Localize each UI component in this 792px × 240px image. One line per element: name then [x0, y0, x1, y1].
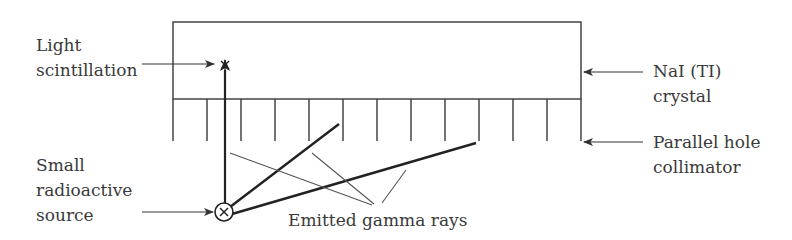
- label-line: radioactive: [36, 178, 132, 203]
- label-line: scintillation: [36, 58, 137, 83]
- label-line: source: [36, 203, 132, 228]
- label-line: NaI (TI): [653, 59, 721, 84]
- radioactive-source-icon: [215, 203, 233, 221]
- collimator-label: Parallel hole collimator: [653, 130, 761, 180]
- source-label: Small radioactive source: [36, 153, 132, 228]
- parallel-hole-collimator: [173, 99, 581, 141]
- label-line: collimator: [653, 155, 761, 180]
- gamma-rays-label: Emitted gamma rays: [288, 208, 467, 233]
- gamma-ray-oblique-1: [230, 124, 339, 207]
- nai-crystal: [173, 22, 581, 99]
- scintillation-star-icon: [221, 60, 229, 70]
- label-line: Light: [36, 33, 137, 58]
- crystal-label: NaI (TI) crystal: [653, 59, 721, 109]
- label-line: Emitted gamma rays: [288, 208, 467, 233]
- label-line: Small: [36, 153, 132, 178]
- gamma-rays-leader-lines: [230, 153, 406, 205]
- label-line: Parallel hole: [653, 130, 761, 155]
- label-line: crystal: [653, 84, 721, 109]
- light-scintillation-label: Light scintillation: [36, 33, 137, 83]
